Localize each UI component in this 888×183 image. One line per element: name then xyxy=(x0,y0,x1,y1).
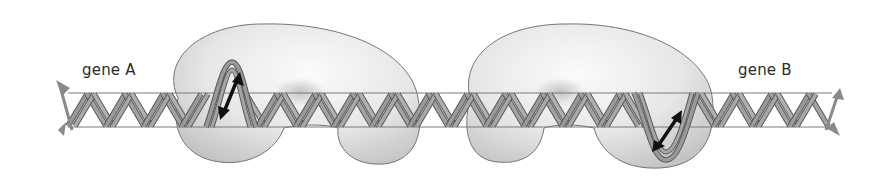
end-arrow-icon-right xyxy=(826,88,844,136)
gene-a-label: gene A xyxy=(82,61,136,79)
gene-b-label: gene B xyxy=(738,61,792,79)
protein-complex-a xyxy=(174,24,420,164)
dna-looping-diagram xyxy=(0,0,888,183)
end-arrow-icon-left xyxy=(56,80,72,136)
